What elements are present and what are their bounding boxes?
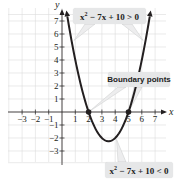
label-text: − 7x + 10 < 0 bbox=[117, 166, 168, 176]
y-tick-label: 2 bbox=[54, 81, 59, 91]
x-tick-label: 5 bbox=[126, 114, 131, 124]
label-greater-than-zero: x2 − 7x + 10 > 0 bbox=[73, 8, 146, 24]
y-tick-label: 5 bbox=[54, 42, 59, 52]
x-tick-label: 6 bbox=[140, 114, 145, 124]
label-less-than-zero: x2 − 7x + 10 < 0 bbox=[105, 162, 173, 178]
label-boundary-points: Boundary points bbox=[108, 72, 170, 87]
y-axis-label: y bbox=[54, 0, 60, 10]
y-tick-label: 7 bbox=[54, 16, 59, 26]
x-tick-label: −3 bbox=[17, 114, 27, 124]
graph-figure: −3−2−112345677654321−1−2−3 x y x2 − 7x +… bbox=[0, 0, 177, 182]
label-text: − 7x + 10 > 0 bbox=[88, 12, 139, 22]
y-tick-label: 6 bbox=[54, 29, 59, 39]
x-tick-label: −2 bbox=[31, 114, 41, 124]
y-tick-label: −1 bbox=[49, 120, 59, 130]
x-tick-label: 2 bbox=[86, 114, 91, 124]
y-tick-label: 1 bbox=[54, 94, 59, 104]
x-tick-label: 3 bbox=[100, 114, 105, 124]
y-tick-label: 3 bbox=[54, 68, 59, 78]
x-axis-label: x bbox=[168, 106, 174, 117]
x-tick-label: 7 bbox=[153, 114, 158, 124]
y-tick-label: −3 bbox=[49, 146, 59, 156]
coordinate-plane: −3−2−112345677654321−1−2−3 x y bbox=[0, 0, 177, 182]
y-tick-label: −2 bbox=[49, 133, 59, 143]
x-tick-label: 4 bbox=[113, 114, 118, 124]
y-tick-label: 4 bbox=[54, 55, 59, 65]
axes bbox=[8, 9, 167, 165]
x-tick-label: 1 bbox=[73, 114, 78, 124]
